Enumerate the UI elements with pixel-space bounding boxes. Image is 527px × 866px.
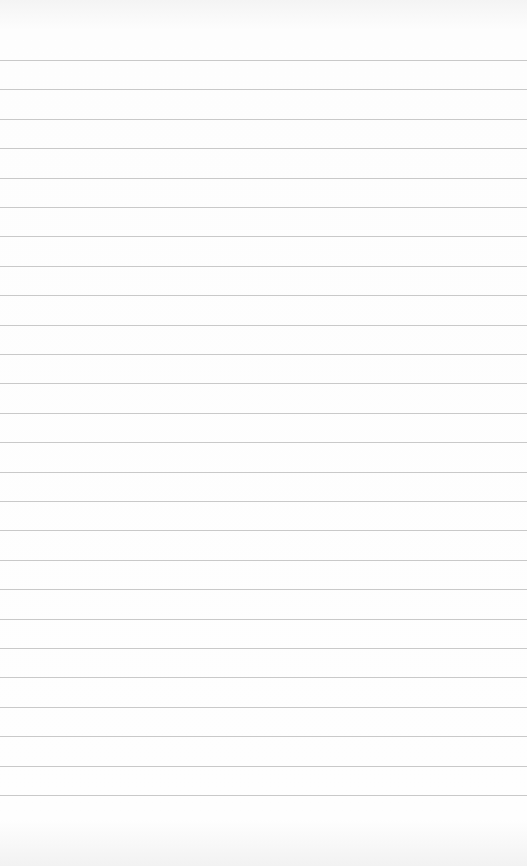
- ruled-line: [0, 325, 527, 326]
- ruled-line: [0, 383, 527, 384]
- ruled-line: [0, 119, 527, 120]
- ruled-line: [0, 766, 527, 767]
- ruled-line: [0, 795, 527, 796]
- ruled-line: [0, 501, 527, 502]
- ruled-line: [0, 472, 527, 473]
- ruled-line: [0, 589, 527, 590]
- ruled-line: [0, 648, 527, 649]
- ruled-line: [0, 560, 527, 561]
- ruled-line: [0, 707, 527, 708]
- ruled-line: [0, 148, 527, 149]
- header-area: [0, 0, 527, 58]
- ruled-line: [0, 530, 527, 531]
- ruled-line: [0, 354, 527, 355]
- ruled-line: [0, 677, 527, 678]
- ruled-line: [0, 178, 527, 179]
- ruled-line: [0, 736, 527, 737]
- notepad-page: [0, 0, 527, 866]
- ruled-line: [0, 236, 527, 237]
- ruled-line: [0, 207, 527, 208]
- ruled-line: [0, 60, 527, 61]
- ruled-line: [0, 413, 527, 414]
- ruled-line: [0, 89, 527, 90]
- ruled-line: [0, 295, 527, 296]
- ruled-line: [0, 442, 527, 443]
- ruled-line: [0, 266, 527, 267]
- ruled-line: [0, 619, 527, 620]
